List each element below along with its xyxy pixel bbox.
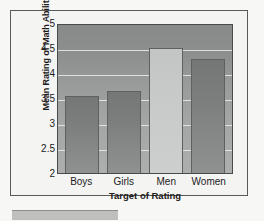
x-axis-tick-labels: BoysGirlsMenWomen: [57, 176, 233, 187]
y-axis-tick-label: 3.5: [31, 94, 55, 104]
x-axis-title: Target of Rating: [57, 190, 233, 201]
bar: [65, 96, 99, 174]
bar-slot: [145, 25, 187, 173]
x-axis-tick-label: Girls: [103, 176, 146, 187]
x-axis-tick-label: Men: [145, 176, 188, 187]
bar: [149, 48, 183, 173]
plot-area: [57, 24, 233, 174]
bar: [191, 59, 225, 173]
y-axis-tick-label: 4: [31, 69, 55, 79]
bar-slot: [61, 25, 103, 173]
x-axis-tick-label: Boys: [60, 176, 103, 187]
bar: [107, 91, 141, 174]
scanned-page: Mean Rating of Math Ability 22.533.544.5…: [0, 0, 264, 221]
y-axis-tick-label: 5: [31, 19, 55, 29]
figure-frame: Mean Rating of Math Ability 22.533.544.5…: [10, 10, 248, 196]
x-axis-tick-label: Women: [188, 176, 231, 187]
y-axis-tick-label: 2: [31, 169, 55, 179]
bar-slot: [187, 25, 229, 173]
bar-series: [58, 25, 232, 173]
y-axis-tick-label: 4.5: [31, 44, 55, 54]
y-axis-tick-labels: 22.533.544.55: [31, 19, 55, 174]
bar-slot: [103, 25, 145, 173]
page-footer-strip: [12, 210, 118, 220]
y-axis-tick-label: 3: [31, 119, 55, 129]
y-axis-tick-label: 2.5: [31, 144, 55, 154]
